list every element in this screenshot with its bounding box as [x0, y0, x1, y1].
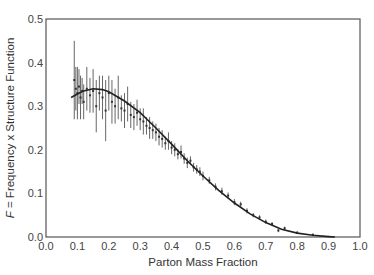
data-point: [75, 88, 77, 90]
data-point: [158, 136, 160, 138]
x-tick-label: 0.7: [258, 240, 273, 252]
x-tick-label: 0.3: [133, 240, 148, 252]
x-tick-label: 0.8: [290, 240, 305, 252]
data-point: [102, 96, 104, 98]
x-axis-ticks: 0.00.10.20.30.40.50.60.70.80.91.0: [38, 240, 367, 252]
data-point: [95, 105, 97, 107]
data-point: [189, 160, 191, 162]
y-tick-label: 0.3: [28, 100, 43, 112]
data-point: [92, 90, 94, 92]
data-point: [145, 125, 147, 127]
data-point: [142, 120, 144, 122]
x-tick-label: 0.6: [227, 240, 242, 252]
x-tick-label: 0.9: [321, 240, 336, 252]
data-point: [139, 118, 141, 120]
data-point: [171, 147, 173, 149]
data-point: [177, 153, 179, 155]
data-point: [227, 195, 229, 197]
data-point: [78, 86, 80, 88]
data-point: [284, 227, 286, 229]
x-tick-label: 1.0: [352, 240, 367, 252]
y-axis-label-text: = Frequency x Structure Function: [4, 38, 16, 212]
data-point: [80, 96, 82, 98]
data-point: [152, 129, 154, 131]
data-points: [73, 79, 314, 236]
data-point: [161, 138, 163, 140]
data-point: [105, 110, 107, 112]
plot-frame: [46, 19, 360, 237]
x-tick-label: 0.4: [164, 240, 179, 252]
x-tick-label: 0.1: [70, 240, 85, 252]
x-tick-label: 0.0: [38, 240, 53, 252]
data-point: [149, 127, 151, 129]
y-tick-label: 0.1: [28, 187, 43, 199]
data-point: [240, 203, 242, 205]
data-point: [277, 229, 279, 231]
data-point: [114, 105, 116, 107]
y-tick-label: 0.2: [28, 144, 43, 156]
x-axis-label: Parton Mass Fraction: [148, 256, 257, 268]
data-point: [130, 114, 132, 116]
data-point: [83, 101, 85, 103]
data-point: [73, 79, 75, 81]
y-tick-label: 0.4: [28, 57, 43, 69]
x-tick-label: 0.5: [195, 240, 210, 252]
data-point: [124, 110, 126, 112]
x-tick-label: 0.2: [101, 240, 116, 252]
data-point: [111, 101, 113, 103]
y-axis-ticks: 0.00.10.20.30.40.5: [28, 13, 43, 243]
chart: 0.00.10.20.30.40.5 0.00.10.20.30.40.50.6…: [0, 0, 374, 275]
data-point: [133, 116, 135, 118]
data-point: [89, 94, 91, 96]
data-point: [98, 92, 100, 94]
y-axis-label: F = Frequency x Structure Function: [4, 38, 16, 219]
data-point: [136, 112, 138, 114]
data-point: [120, 107, 122, 109]
data-point: [155, 131, 157, 133]
y-tick-label: 0.5: [28, 13, 43, 25]
data-point: [164, 142, 166, 144]
fit-curve: [71, 89, 335, 237]
error-bars: [74, 41, 313, 236]
